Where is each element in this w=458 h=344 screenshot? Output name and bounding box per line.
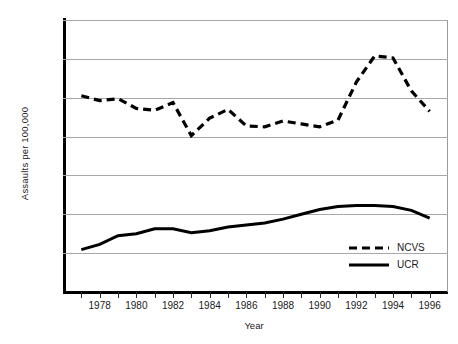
x-axis-tick: [118, 292, 119, 298]
x-axis-tick: [301, 292, 302, 298]
x-axis-tick-label: 1996: [410, 300, 450, 311]
x-axis-tick: [210, 292, 211, 298]
chart-legend: NCVSUCR: [349, 239, 425, 273]
x-axis-tick: [375, 292, 376, 298]
x-axis-tick: [136, 292, 137, 298]
x-axis-tick-label: 1984: [190, 300, 230, 311]
x-axis-tick-label: 1994: [373, 300, 413, 311]
x-axis-tick: [265, 292, 266, 298]
x-axis-tick-label: 1986: [226, 300, 266, 311]
legend-label: NCVS: [397, 243, 425, 253]
x-axis-tick-label: 1980: [116, 300, 156, 311]
x-axis-tick: [430, 292, 431, 298]
x-axis-tick: [191, 292, 192, 298]
x-axis-tick: [411, 292, 412, 298]
x-axis-tick: [320, 292, 321, 298]
x-axis-tick-label: 1992: [336, 300, 376, 311]
x-axis-tick: [173, 292, 174, 298]
x-axis-tick-label: 1990: [300, 300, 340, 311]
x-axis-tick-label: 1988: [263, 300, 303, 311]
x-axis-tick: [100, 292, 101, 298]
x-axis-title: Year: [60, 320, 448, 331]
x-axis-tick: [356, 292, 357, 298]
series-line-ncvs: [81, 56, 429, 136]
x-axis-tick: [283, 292, 284, 298]
y-axis-title: Assaults per 100,000: [19, 54, 30, 254]
legend-swatch-solid-icon: [349, 260, 389, 270]
x-axis-tick-label: 1982: [153, 300, 193, 311]
x-axis-tick: [81, 292, 82, 298]
x-axis-tick: [393, 292, 394, 298]
legend-item-ncvs: NCVS: [349, 239, 425, 256]
x-axis-tick: [155, 292, 156, 298]
x-axis-tick: [246, 292, 247, 298]
legend-swatch-dashed-icon: [349, 243, 389, 253]
legend-item-ucr: UCR: [349, 256, 425, 273]
x-axis-tick: [228, 292, 229, 298]
legend-label: UCR: [397, 260, 419, 270]
x-axis-tick: [338, 292, 339, 298]
assaults-line-chart: Assaults per 100,000 0200400600800100012…: [0, 0, 458, 344]
x-axis-tick-label: 1978: [80, 300, 120, 311]
